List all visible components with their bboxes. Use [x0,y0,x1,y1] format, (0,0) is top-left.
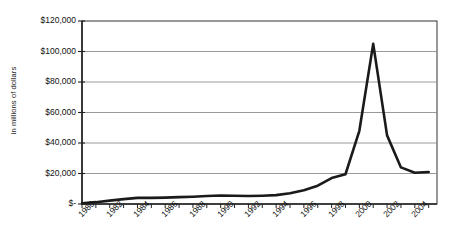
x-tick-label: 1982 [104,199,124,219]
x-tick-label: 1992 [242,199,262,219]
x-tick-label: 1996 [298,199,318,219]
x-tick-label: 1980 [76,199,96,219]
x-tick-label: 1994 [270,199,290,219]
chart-container: in millions of dollars $120,000$100,000$… [0,0,452,251]
x-axis-tick-labels: 1980198219841986198819901992199419961998… [0,0,452,251]
x-tick-label: 1988 [187,199,207,219]
x-tick-label: 1986 [159,199,179,219]
x-tick-label: 1998 [326,199,346,219]
x-tick-label: 2004 [409,199,429,219]
x-tick-label: 1990 [215,199,235,219]
x-tick-label: 2000 [353,199,373,219]
x-tick-label: 2002 [381,199,401,219]
x-tick-label: 1984 [131,199,151,219]
